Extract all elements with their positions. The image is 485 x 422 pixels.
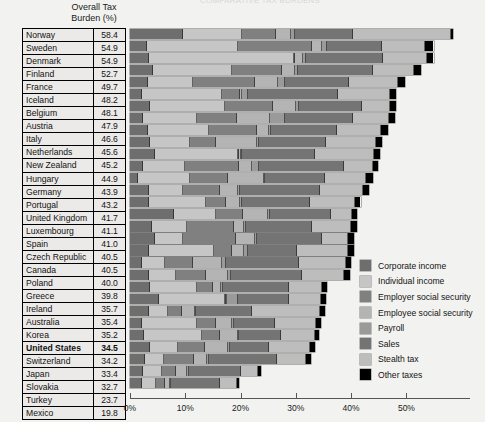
bar-segment-payroll <box>227 294 238 304</box>
bar-segment-corporate-income <box>130 245 149 255</box>
bar-segment-other-taxes <box>310 342 315 352</box>
bar-segment-individual-income <box>142 257 166 267</box>
table-row: United States34.5 <box>23 342 126 355</box>
tax-burden-value-cell: 48.2 <box>94 94 126 107</box>
table-row: Belgium48.1 <box>23 107 126 120</box>
stacked-bar <box>130 221 357 231</box>
bar-segment-stealth-tax <box>289 282 322 292</box>
bar-segment-individual-income <box>149 245 214 255</box>
bar-segment-employer-social-security <box>187 221 234 231</box>
bar-segment-employee-social-security <box>295 53 303 63</box>
bar-segment-sales <box>230 342 269 352</box>
bar-segment-corporate-income <box>130 77 148 87</box>
bar-segment-stealth-tax <box>275 318 316 328</box>
bar-row <box>130 209 470 221</box>
bar-segment-other-taxes <box>355 197 361 207</box>
stacked-bar <box>130 77 405 87</box>
stacked-bar <box>130 294 326 304</box>
bar-segment-corporate-income <box>130 294 159 304</box>
bar-segment-sales <box>209 354 277 364</box>
legend-label: Corporate income <box>378 261 446 271</box>
country-name-cell: Germany <box>23 185 94 198</box>
bar-segment-stealth-tax <box>320 185 364 195</box>
table-row: Germany43.9 <box>23 185 126 198</box>
bar-segment-employer-social-security <box>185 161 239 171</box>
country-name-cell: Luxembourg <box>23 224 94 237</box>
table-row: Finland52.7 <box>23 68 126 81</box>
tax-burden-value-cell: 45.6 <box>94 146 126 159</box>
bar-segment-sales <box>299 101 362 111</box>
tax-burden-value-cell: 40.0 <box>94 276 126 289</box>
bar-segment-sales <box>231 270 302 280</box>
tax-burden-value-cell: 35.2 <box>94 329 126 342</box>
bar-segment-employer-social-security <box>197 282 214 292</box>
bar-segment-other-taxes <box>351 221 357 231</box>
country-name-cell: Poland <box>23 276 94 289</box>
bar-segment-sales <box>259 161 345 171</box>
tax-burden-value-cell: 47.9 <box>94 120 126 133</box>
bar-segment-stealth-tax <box>338 89 390 99</box>
bar-segment-employee-social-security <box>255 77 278 87</box>
country-name-cell: Iceland <box>23 94 94 107</box>
country-name-cell: Slovakia <box>23 381 94 394</box>
bar-segment-other-taxes <box>390 101 396 111</box>
table-row: Denmark54.9 <box>23 55 126 68</box>
table-row: Switzerland34.2 <box>23 355 126 368</box>
stacked-bar <box>130 342 315 352</box>
bar-segment-sales <box>234 318 275 328</box>
bar-row <box>130 76 470 88</box>
country-name-cell: Denmark <box>23 55 94 68</box>
bar-segment-employer-social-security <box>197 318 216 328</box>
bar-segment-stealth-tax <box>299 257 346 267</box>
bar-segment-individual-income <box>149 306 168 316</box>
country-name-cell: Italy <box>23 133 94 146</box>
bar-segment-stealth-tax <box>277 354 306 364</box>
bar-segment-corporate-income <box>130 330 144 340</box>
bar-segment-other-taxes <box>316 318 321 328</box>
bar-segment-sales <box>196 306 251 316</box>
bar-segment-other-taxes <box>348 233 354 243</box>
bar-segment-individual-income <box>149 185 183 195</box>
tax-burden-value-cell: 52.7 <box>94 68 126 81</box>
x-tick-label: 0% <box>124 403 136 413</box>
bar-segment-sales <box>248 245 298 255</box>
tax-burden-value-cell: 58.4 <box>94 29 126 42</box>
bar-segment-stealth-tax <box>353 113 388 123</box>
bar-segment-employer-social-security <box>225 101 273 111</box>
table-row: New Zealand45.2 <box>23 159 126 172</box>
bar-segment-employee-social-security <box>220 330 238 340</box>
bar-segment-other-taxes <box>348 245 354 255</box>
bar-segment-employer-social-security <box>165 257 193 267</box>
stacked-bar <box>130 197 361 207</box>
bar-segment-stealth-tax <box>322 233 348 243</box>
legend-swatch-employer_ss <box>360 291 371 302</box>
country-name-cell: Spain <box>23 237 94 250</box>
bar-segment-corporate-income <box>130 125 148 135</box>
tax-burden-value-cell: 40.5 <box>94 263 126 276</box>
bar-segment-corporate-income <box>130 65 153 75</box>
bar-row <box>130 64 470 76</box>
stacked-bar <box>130 161 378 171</box>
stacked-bar <box>130 185 369 195</box>
bar-row <box>130 112 470 124</box>
table-row: Spain41.0 <box>23 237 126 250</box>
country-value-table: Norway58.4Sweden54.9Denmark54.9Finland52… <box>22 28 126 420</box>
table-row: Australia35.4 <box>23 316 126 329</box>
bar-row <box>130 40 470 52</box>
x-tick <box>406 393 407 399</box>
bar-segment-other-taxes <box>352 209 358 219</box>
x-tick <box>296 393 297 399</box>
bar-segment-sales <box>298 65 373 75</box>
bar-segment-stealth-tax <box>315 149 374 159</box>
bar-segment-corporate-income <box>130 306 149 316</box>
tax-burden-value-cell: 44.9 <box>94 172 126 185</box>
table-row: Portugal43.2 <box>23 198 126 211</box>
bar-segment-employee-social-security <box>206 270 229 280</box>
table-row: Poland40.0 <box>23 276 126 289</box>
tax-burden-value-cell: 54.9 <box>94 55 126 68</box>
stacked-bar <box>130 282 327 292</box>
bar-segment-employee-social-security <box>234 221 245 231</box>
bar-segment-stealth-tax <box>383 53 428 63</box>
table-row: Korea35.2 <box>23 329 126 342</box>
value-column-header-line2: Burden (%) <box>63 13 125 24</box>
